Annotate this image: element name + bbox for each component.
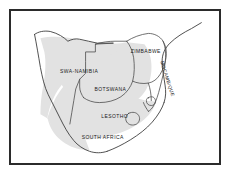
label-namibia: SWA-NAMIBIA bbox=[60, 68, 98, 74]
map-frame-border: SWA-NAMIBIA BOTSWANA ZIMBABWE MOCAMBIQUE… bbox=[9, 9, 221, 165]
label-south-africa: SOUTH AFRICA bbox=[82, 134, 124, 140]
southern-africa-map: SWA-NAMIBIA BOTSWANA ZIMBABWE MOCAMBIQUE… bbox=[11, 11, 219, 163]
label-zimbabwe: ZIMBABWE bbox=[131, 48, 161, 54]
east-coast-line bbox=[162, 23, 201, 103]
border-zimbabwe-mozambique bbox=[148, 83, 151, 101]
map-figure: SWA-NAMIBIA BOTSWANA ZIMBABWE MOCAMBIQUE… bbox=[0, 0, 232, 176]
label-lesotho: LESOTHO bbox=[101, 113, 128, 119]
label-mozambique: MOCAMBIQUE bbox=[159, 60, 175, 97]
label-botswana: BOTSWANA bbox=[94, 86, 126, 92]
